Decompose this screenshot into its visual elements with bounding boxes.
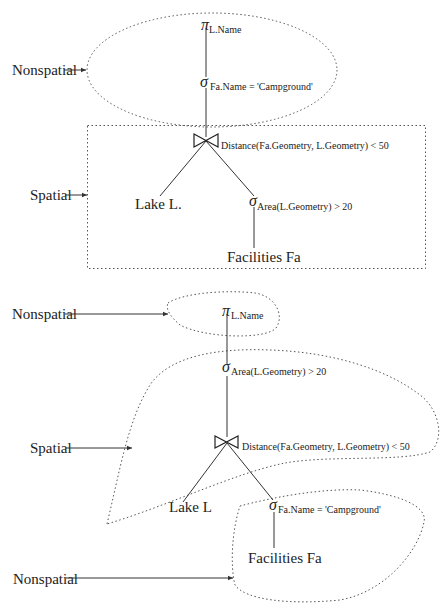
select-area-symbol-bottom: σ <box>222 358 231 375</box>
facilities-node: Facilities Fa <box>227 249 301 265</box>
select-name-subscript: Fa.Name = 'Campground' <box>210 81 313 92</box>
project-subscript-bottom: L.Name <box>231 310 264 321</box>
project-symbol-bottom: π <box>222 302 231 319</box>
lake-node-bottom: Lake L <box>169 499 212 515</box>
join-bowtie-icon-bottom <box>215 436 238 448</box>
join-subscript-bottom: Distance(Fa.Geometry, L.Geometry) < 50 <box>242 441 410 453</box>
facilities-node-bottom: Facilities Fa <box>248 550 322 566</box>
project-subscript: L.Name <box>209 24 242 35</box>
spatial-label-bottom: Spatial <box>30 440 72 456</box>
bottom-plan: Nonspatial Spatial Nonspatial π L.Name σ… <box>12 292 439 602</box>
lake-node: Lake L. <box>135 196 182 212</box>
top-plan: Nonspatial Spatial π L.Name σ Fa.Name = … <box>12 13 426 269</box>
edge-join-lake <box>183 443 227 502</box>
select-name-subscript-bottom: Fa.Name = 'Campground' <box>278 504 381 515</box>
select-area-subscript-bottom: Area(L.Geometry) > 20 <box>231 366 326 378</box>
query-plan-diagram: Nonspatial Spatial π L.Name σ Fa.Name = … <box>0 0 447 610</box>
select-name-symbol: σ <box>200 73 209 90</box>
select-name-symbol-bottom: σ <box>269 496 278 513</box>
select-area-subscript: Area(L.Geometry) > 20 <box>257 201 352 213</box>
nonspatial-bottom-label: Nonspatial <box>13 571 78 587</box>
join-subscript: Distance(Fa.Geometry, L.Geometry) < 50 <box>221 140 389 152</box>
edge-join-lake <box>160 141 206 196</box>
